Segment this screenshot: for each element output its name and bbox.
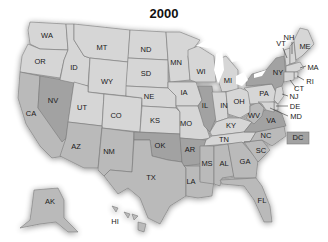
label-ME: ME xyxy=(299,42,310,51)
label-AZ: AZ xyxy=(71,142,81,151)
label-UT: UT xyxy=(77,103,87,112)
label-NC: NC xyxy=(261,131,272,140)
label-DC: DC xyxy=(293,133,304,142)
label-CO: CO xyxy=(110,111,121,120)
label-IN: IN xyxy=(220,101,228,110)
label-NJ: NJ xyxy=(289,92,298,101)
label-OR: OR xyxy=(34,57,46,66)
label-NE: NE xyxy=(144,92,154,101)
label-IA: IA xyxy=(180,88,187,97)
label-NM: NM xyxy=(103,147,115,156)
label-SC: SC xyxy=(256,146,267,155)
label-OH: OH xyxy=(233,97,244,106)
label-LA: LA xyxy=(186,177,195,186)
label-DE: DE xyxy=(290,102,300,111)
label-NV: NV xyxy=(48,96,58,105)
label-AK: AK xyxy=(45,197,55,206)
label-WY: WY xyxy=(101,77,113,86)
label-ND: ND xyxy=(141,45,152,54)
label-RI: RI xyxy=(306,77,314,86)
label-NY: NY xyxy=(273,68,283,77)
label-OK: OK xyxy=(155,141,166,150)
label-GA: GA xyxy=(240,157,251,166)
label-CA: CA xyxy=(26,109,36,118)
label-NH: NH xyxy=(284,33,295,42)
us-map: WA OR CA NV ID MT WY UT CO AZ NM ND SD N… xyxy=(0,0,328,242)
label-AL: AL xyxy=(219,159,228,168)
label-HI: HI xyxy=(111,217,119,226)
label-MS: MS xyxy=(201,159,212,168)
state-CT[interactable] xyxy=(284,72,294,82)
state-RI[interactable] xyxy=(294,72,298,78)
label-MT: MT xyxy=(97,43,108,52)
label-MD: MD xyxy=(290,112,302,121)
state-AK[interactable] xyxy=(20,188,78,232)
label-MA: MA xyxy=(307,63,318,72)
label-WA: WA xyxy=(41,31,53,40)
label-TN: TN xyxy=(219,135,229,144)
label-VA: VA xyxy=(266,116,275,125)
state-WI[interactable] xyxy=(188,46,216,82)
label-KS: KS xyxy=(150,116,160,125)
label-MO: MO xyxy=(180,119,192,128)
label-IL: IL xyxy=(202,101,208,110)
label-WV: WV xyxy=(248,111,260,120)
label-WI: WI xyxy=(196,67,205,76)
state-CO[interactable] xyxy=(102,94,142,132)
label-MN: MN xyxy=(170,58,182,67)
label-TX: TX xyxy=(146,173,156,182)
label-AR: AR xyxy=(185,145,196,154)
label-KY: KY xyxy=(226,121,236,130)
label-FL: FL xyxy=(258,196,267,205)
label-SD: SD xyxy=(141,69,152,78)
label-ID: ID xyxy=(70,63,78,72)
label-PA: PA xyxy=(259,89,268,98)
label-MI: MI xyxy=(224,76,232,85)
